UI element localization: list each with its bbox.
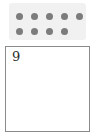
dot	[61, 13, 68, 20]
answer-value: 9	[12, 50, 20, 63]
dot	[76, 13, 83, 20]
dot-row-bottom	[16, 28, 68, 35]
dot-group-panel	[9, 3, 86, 40]
dot	[46, 13, 53, 20]
dot	[61, 28, 68, 35]
dot	[31, 28, 38, 35]
dot-row-top	[16, 13, 83, 20]
answer-box[interactable]: 9	[5, 46, 90, 132]
dot	[46, 28, 53, 35]
dot	[31, 13, 38, 20]
dot	[16, 28, 23, 35]
dot	[16, 13, 23, 20]
